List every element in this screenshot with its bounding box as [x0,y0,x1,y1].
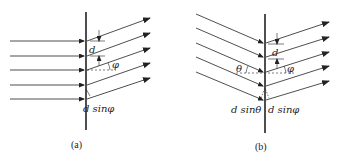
label-theta-b: θ [236,63,242,74]
label-d-a: d [89,44,95,55]
diffraction-grating-figure: d φ d sinφ (a) [0,0,339,163]
angle-arc-theta-b [246,66,248,73]
label-dsintheta-b: d sinθ [231,104,261,115]
panel-a [10,12,150,130]
caption-b: (b) [255,141,267,153]
caption-a: (a) [71,139,82,151]
label-phi-b: φ [287,63,294,74]
label-dsinphi-a: d sinφ [83,103,114,114]
angle-arc-a [108,63,110,70]
label-phi-a: φ [112,59,119,70]
angle-arc-phi-b [284,66,286,73]
label-dsinphi-b: d sinφ [268,104,299,115]
incident-rays-a [10,41,84,99]
panel-b [196,14,329,133]
diffracted-rays-b [266,22,329,100]
incident-rays-b [196,14,263,100]
label-d-b: d [272,47,278,58]
